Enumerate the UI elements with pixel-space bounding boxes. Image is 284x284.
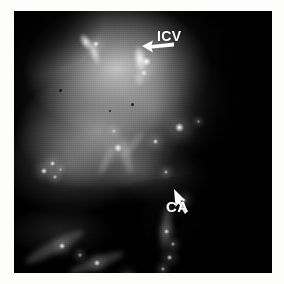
bright-punctum-6: [114, 144, 122, 152]
ca-label: CA: [166, 199, 188, 214]
bright-punctum-9: [41, 168, 47, 174]
bright-punctum-4: [175, 123, 184, 132]
bright-punctum-3: [141, 70, 147, 76]
bright-punctum-11: [59, 168, 62, 171]
bright-punctum-19: [94, 260, 100, 266]
bright-punctum-8: [50, 161, 55, 166]
bright-punctum-15: [171, 242, 175, 246]
bright-punctum-22: [197, 120, 200, 123]
bright-punctum-10: [53, 175, 57, 179]
bright-punctum-16: [167, 255, 172, 260]
icv-label: ICV: [157, 29, 182, 43]
dark-speck-4: [109, 110, 111, 112]
bright-punctum-17: [161, 267, 165, 271]
dark-speck-1: [59, 89, 62, 92]
bright-punctum-2: [142, 57, 151, 66]
bright-punctum-18: [59, 243, 65, 249]
bright-punctum-21: [78, 253, 82, 257]
bright-punctum-5: [153, 139, 158, 144]
figure-panel: ICV CA: [0, 0, 284, 284]
bright-punctum-7: [112, 129, 116, 133]
dark-speck-2: [131, 103, 134, 106]
dark-speck-3: [244, 54, 247, 57]
micrograph-image: ICV CA: [14, 11, 272, 273]
bright-punctum-14: [164, 229, 169, 234]
bright-punctum-1: [93, 41, 99, 47]
bright-punctum-12: [164, 170, 168, 174]
